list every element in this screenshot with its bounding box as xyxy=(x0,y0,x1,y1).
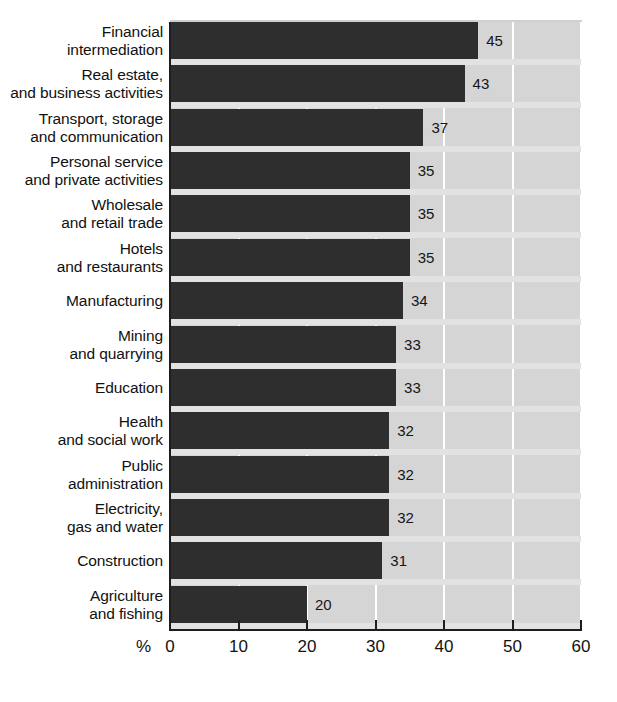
bar xyxy=(170,542,382,579)
bar xyxy=(170,65,465,102)
x-axis-tick xyxy=(238,620,240,631)
row-separator xyxy=(170,232,581,238)
category-label: Health and social work xyxy=(0,413,163,449)
category-label: Hotels and restaurants xyxy=(0,240,163,276)
bar xyxy=(170,109,423,146)
bar-value-label: 32 xyxy=(397,510,414,526)
row-separator xyxy=(170,579,581,585)
x-axis-tick-label: 50 xyxy=(483,637,543,657)
category-label: Public administration xyxy=(0,457,163,493)
bar-value-label: 37 xyxy=(431,120,448,136)
bar-value-label: 45 xyxy=(486,33,503,49)
bar xyxy=(170,282,403,319)
x-axis-tick xyxy=(512,620,514,631)
category-label: Mining and quarrying xyxy=(0,327,163,363)
bar xyxy=(170,369,396,406)
category-label: Construction xyxy=(0,552,163,570)
bar xyxy=(170,326,396,363)
bar-value-label: 32 xyxy=(397,467,414,483)
bar xyxy=(170,412,389,449)
bar-value-label: 33 xyxy=(404,337,421,353)
x-axis-tick-label: 60 xyxy=(551,637,611,657)
x-axis-tick xyxy=(306,620,308,631)
plot-top-border xyxy=(170,20,582,22)
x-axis-tick xyxy=(443,620,445,631)
bar xyxy=(170,239,410,276)
category-label: Transport, storage and communication xyxy=(0,110,163,146)
bar-value-label: 20 xyxy=(315,597,332,613)
bar-value-label: 32 xyxy=(397,423,414,439)
row-separator xyxy=(170,102,581,108)
category-label: Financial intermediation xyxy=(0,23,163,59)
bar xyxy=(170,499,389,536)
category-label: Wholesale and retail trade xyxy=(0,196,163,232)
category-label: Personal service and private activities xyxy=(0,153,163,189)
x-axis-tick xyxy=(580,620,582,631)
row-separator xyxy=(170,449,581,455)
category-label: Electricity, gas and water xyxy=(0,500,163,536)
bar-value-label: 34 xyxy=(411,293,428,309)
bar-value-label: 43 xyxy=(473,76,490,92)
bar-value-label: 35 xyxy=(418,206,435,222)
plot-area: 4543373535353433333232323120 xyxy=(170,22,581,629)
bar-value-label: 35 xyxy=(418,250,435,266)
x-axis-tick-label: 40 xyxy=(414,637,474,657)
bar-value-label: 33 xyxy=(404,380,421,396)
x-axis-tick xyxy=(375,620,377,631)
bar-value-label: 31 xyxy=(390,553,407,569)
bar xyxy=(170,195,410,232)
x-axis-unit-label: % xyxy=(136,637,151,657)
bar-value-label: 35 xyxy=(418,163,435,179)
row-separator xyxy=(170,319,581,325)
category-label: Agriculture and fishing xyxy=(0,587,163,623)
category-label: Manufacturing xyxy=(0,292,163,310)
x-axis-tick xyxy=(169,620,171,631)
bar xyxy=(170,456,389,493)
y-axis-line xyxy=(169,22,171,629)
x-axis-tick-label: 30 xyxy=(346,637,406,657)
category-label: Real estate, and business activities xyxy=(0,66,163,102)
bar xyxy=(170,152,410,189)
bar xyxy=(170,22,478,59)
x-axis-tick-label: 20 xyxy=(277,637,337,657)
bar-chart: Financial intermediationReal estate, and… xyxy=(0,0,617,702)
x-axis-tick-label: 10 xyxy=(209,637,269,657)
category-label: Education xyxy=(0,379,163,397)
bar xyxy=(170,586,307,623)
